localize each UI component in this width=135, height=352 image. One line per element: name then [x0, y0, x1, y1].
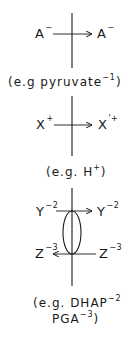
- species-label-a-right: A−: [97, 27, 115, 40]
- example-label-dhap: (e.g. DHAP−2: [33, 296, 122, 311]
- example-label-pga: PGA−3): [52, 312, 99, 327]
- example-label-pyruvate: (e.g pyruvate−1): [8, 75, 122, 90]
- species-label-a-left: A−: [35, 27, 53, 40]
- species-label-z-right: Z−3: [99, 247, 122, 260]
- species-label-y-left: Y−2: [36, 205, 58, 218]
- species-label-z-left: Z−3: [35, 247, 58, 260]
- species-label-x-right: X'+: [98, 118, 118, 131]
- example-label-proton: (e.g. H+): [46, 165, 107, 180]
- species-label-y-right: Y−2: [97, 205, 119, 218]
- species-label-x-left: X+: [36, 118, 54, 131]
